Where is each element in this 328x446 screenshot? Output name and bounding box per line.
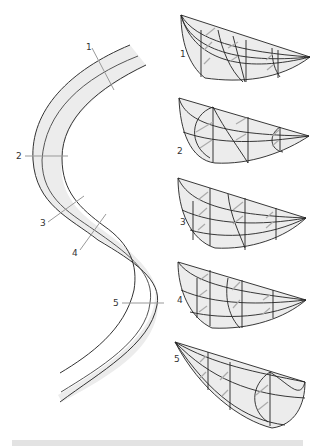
cross-label-1: 1 xyxy=(180,49,186,59)
section-label-4: 4 xyxy=(72,248,78,258)
section-label-1: 1 xyxy=(86,42,92,52)
bottom-bar xyxy=(12,440,303,446)
diagram-canvas: 1 2 3 4 5 1 xyxy=(0,0,328,446)
cross-section-2: 2 xyxy=(177,98,309,163)
section-label-2: 2 xyxy=(16,151,22,161)
cross-label-3: 3 xyxy=(180,217,186,227)
outer-bank-right xyxy=(60,240,158,402)
cross-label-2: 2 xyxy=(177,146,183,156)
cross-label-4: 4 xyxy=(177,295,183,305)
cross-section-5: 5 xyxy=(174,342,305,428)
section-label-5: 5 xyxy=(113,298,119,308)
s-channel: 1 2 3 4 5 xyxy=(16,42,164,402)
cross-section-4: 4 xyxy=(177,262,306,328)
cross-section-1: 1 xyxy=(180,15,310,82)
section-label-3: 3 xyxy=(40,218,46,228)
cross-label-5: 5 xyxy=(174,354,180,364)
cross-section-3: 3 xyxy=(178,178,306,250)
